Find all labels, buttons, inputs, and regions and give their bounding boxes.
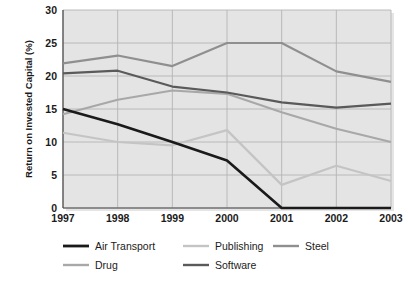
y-tick-label: 15 bbox=[45, 103, 57, 115]
y-axis-title: Return on Invested Capital (%) bbox=[23, 40, 34, 178]
legend-label-software: Software bbox=[215, 259, 257, 271]
x-tick-label: 2000 bbox=[215, 212, 239, 224]
legend-label-steel: Steel bbox=[305, 240, 329, 252]
x-axis-tick-labels: 1997199819992000200120022003 bbox=[51, 212, 403, 224]
y-tick-label: 25 bbox=[45, 37, 57, 49]
y-tick-label: 10 bbox=[45, 136, 57, 148]
y-tick-label: 20 bbox=[45, 70, 57, 82]
legend-label-drug: Drug bbox=[95, 259, 118, 271]
chart-container: 051015202530 199719981999200020012002200… bbox=[0, 0, 408, 285]
y-tick-label: 30 bbox=[45, 4, 57, 16]
x-tick-label: 1998 bbox=[106, 212, 130, 224]
x-tick-label: 2001 bbox=[270, 212, 294, 224]
x-tick-label: 1997 bbox=[51, 212, 75, 224]
legend-label-air-transport: Air Transport bbox=[95, 240, 155, 252]
y-axis-tick-labels: 051015202530 bbox=[45, 4, 57, 214]
legend-label-publishing: Publishing bbox=[215, 240, 264, 252]
x-tick-label: 1999 bbox=[161, 212, 185, 224]
y-tick-label: 5 bbox=[51, 169, 57, 181]
x-tick-label: 2002 bbox=[325, 212, 349, 224]
x-tick-label: 2003 bbox=[379, 212, 403, 224]
roic-line-chart: 051015202530 199719981999200020012002200… bbox=[0, 0, 408, 285]
chart-legend: Air TransportPublishingSteelDrugSoftware bbox=[63, 240, 329, 271]
